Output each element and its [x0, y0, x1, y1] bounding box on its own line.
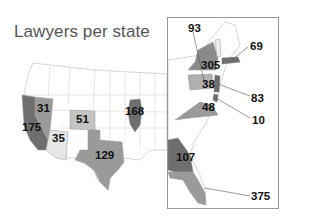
inset-frame	[167, 17, 279, 209]
label-illinois: 168	[125, 105, 145, 117]
label-arizona: 35	[52, 132, 65, 144]
label-colorado: 51	[76, 113, 89, 125]
label-california: 175	[22, 121, 42, 133]
label-nevada: 31	[37, 102, 50, 114]
label-texas: 129	[95, 149, 114, 161]
main-map	[22, 63, 167, 190]
